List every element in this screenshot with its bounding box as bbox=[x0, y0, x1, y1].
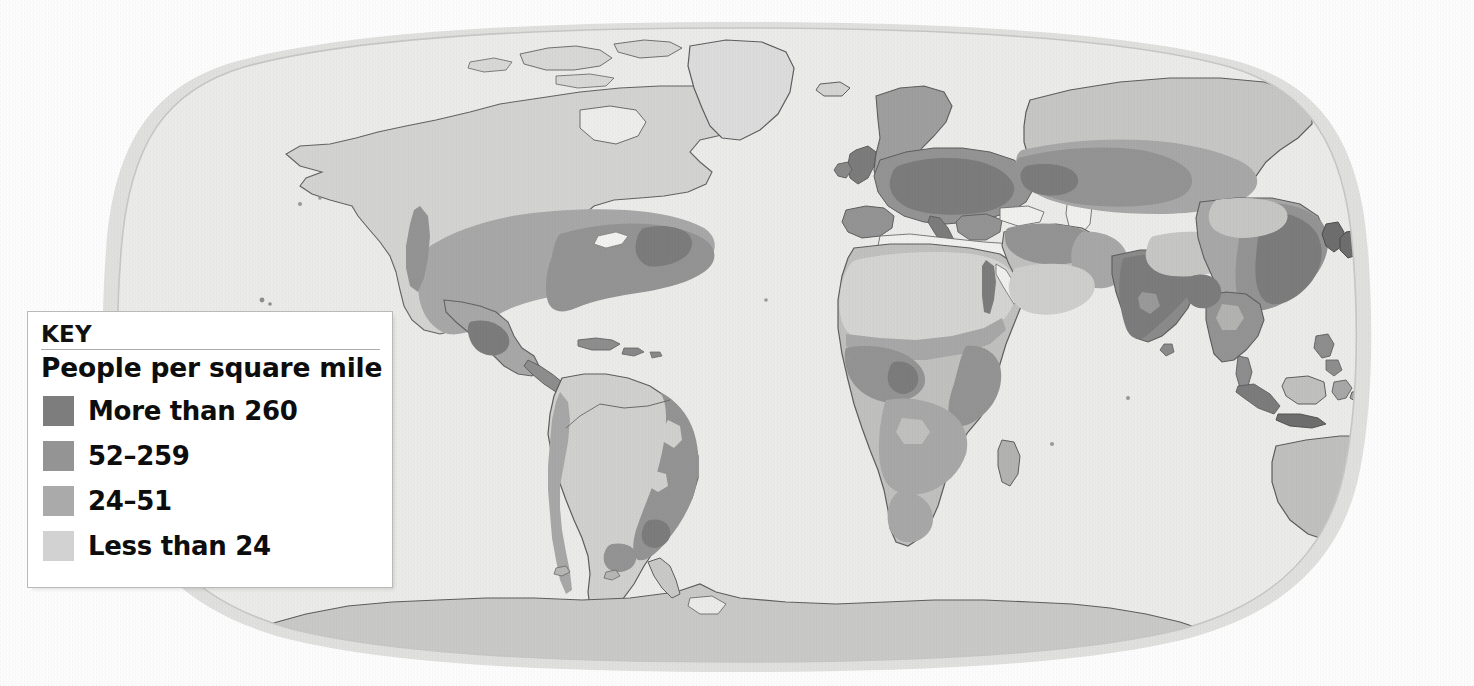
legend-item-list: More than 260 52–259 24–51 Less than 24 bbox=[28, 389, 392, 569]
legend-subtitle: People per square mile bbox=[41, 353, 392, 383]
legend-swatch-less-than-24 bbox=[43, 531, 74, 561]
legend-label-less-than-24: Less than 24 bbox=[88, 531, 271, 561]
world-population-density-map: KEY People per square mile More than 260… bbox=[0, 0, 1474, 686]
legend-swatch-24-51 bbox=[43, 486, 74, 516]
legend-item: 24–51 bbox=[28, 479, 392, 524]
legend-item: 52–259 bbox=[28, 434, 392, 479]
map-legend: KEY People per square mile More than 260… bbox=[27, 311, 393, 588]
legend-swatch-more-than-260 bbox=[43, 396, 74, 426]
legend-item: Less than 24 bbox=[28, 524, 392, 569]
legend-divider bbox=[41, 349, 380, 350]
legend-label-more-than-260: More than 260 bbox=[88, 396, 298, 426]
legend-title: KEY bbox=[41, 322, 392, 346]
legend-label-52-259: 52–259 bbox=[88, 441, 190, 471]
legend-item: More than 260 bbox=[28, 389, 392, 434]
legend-swatch-52-259 bbox=[43, 441, 74, 471]
legend-label-24-51: 24–51 bbox=[88, 486, 172, 516]
